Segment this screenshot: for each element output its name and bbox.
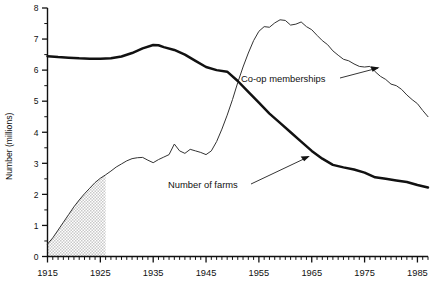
- x-tick-label: 1945: [196, 268, 217, 278]
- coop-annotation: Co-op memberships: [241, 66, 380, 84]
- x-tick-label: 1975: [354, 268, 375, 278]
- y-axis-ticks: [42, 8, 48, 257]
- farms-annotation-leader: [251, 157, 308, 184]
- farms-series: [48, 45, 429, 188]
- chart-svg: 012345678 191519251935194519551965197519…: [0, 0, 433, 286]
- chart-container: 012345678 191519251935194519551965197519…: [0, 0, 433, 286]
- farms-annotation-label: Number of farms: [168, 179, 238, 190]
- x-axis-tick-labels: 19151925193519451955196519751985: [37, 268, 428, 278]
- coop-annotation-label: Co-op memberships: [241, 73, 326, 84]
- x-tick-label: 1915: [37, 268, 58, 278]
- x-tick-label: 1925: [90, 268, 111, 278]
- y-tick-label: 1: [34, 221, 39, 231]
- x-tick-label: 1965: [301, 268, 322, 278]
- farms-annotation-arrowhead: [301, 156, 310, 161]
- x-tick-label: 1985: [407, 268, 428, 278]
- y-tick-label: 8: [34, 3, 39, 13]
- farms-annotation: Number of farms: [168, 156, 310, 190]
- y-tick-label: 2: [34, 190, 39, 200]
- y-tick-label: 0: [34, 252, 39, 262]
- y-tick-label: 6: [34, 65, 39, 75]
- y-tick-label: 7: [34, 34, 39, 44]
- y-axis-tick-labels: 012345678: [34, 3, 39, 262]
- y-tick-label: 4: [34, 128, 39, 138]
- x-tick-label: 1935: [143, 268, 164, 278]
- x-tick-label: 1955: [249, 268, 270, 278]
- y-tick-label: 5: [34, 96, 39, 106]
- shaded-region: [48, 175, 106, 257]
- y-tick-label: 3: [34, 159, 39, 169]
- x-axis-ticks: [48, 257, 429, 263]
- y-axis-title: Number (millions): [4, 113, 14, 180]
